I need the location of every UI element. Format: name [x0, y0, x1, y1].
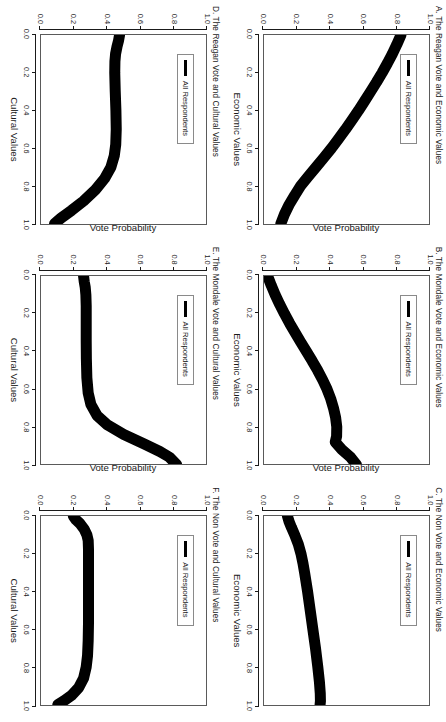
plot-area: All Respondents0.00.20.40.60.81.0Cultura…: [40, 275, 207, 466]
chart-panel-c: C. The Non Vote and Economic ValuesAll R…: [223, 481, 446, 722]
y-axis-tick-label: 0.4: [325, 254, 334, 264]
series-line: [84, 276, 177, 465]
x-axis-tick-label: 0.6: [22, 143, 31, 153]
chart-legend: All Respondents: [400, 535, 418, 625]
y-axis-tick: [207, 507, 208, 511]
x-axis-title: Cultural Values: [9, 515, 20, 706]
y-axis-tick-label: 0.0: [259, 495, 268, 505]
y-axis-line: [40, 510, 207, 511]
x-axis-tick: [255, 515, 259, 516]
legend-label: All Respondents: [182, 322, 190, 377]
x-axis-tick: [255, 274, 259, 275]
chart-panel-d: D. The Reagan Vote and Cultural ValuesAl…: [0, 0, 223, 241]
y-axis-tick-label: 1.0: [426, 495, 435, 505]
y-axis-tick: [140, 267, 141, 271]
y-axis-tick-label: 0.6: [359, 14, 368, 24]
y-axis-tick: [363, 267, 364, 271]
x-axis-tick: [32, 34, 36, 35]
panel-title: A. The Reagan Vote and Economic Values: [434, 6, 443, 164]
x-axis-tick-label: 1.0: [22, 220, 31, 230]
legend-label: All Respondents: [405, 81, 413, 136]
y-axis-tick-label: 0.6: [136, 14, 145, 24]
y-axis-tick: [363, 26, 364, 30]
y-axis: 0.00.20.40.60.81.0Vote Probability: [40, 2, 207, 34]
x-axis-tick: [255, 186, 259, 187]
x-axis-tick: [32, 553, 36, 554]
x-axis-tick: [32, 186, 36, 187]
series-line: [287, 516, 320, 705]
y-axis: 0.00.20.40.60.81.0Vote Probability: [263, 243, 430, 275]
x-axis-tick-label: 1.0: [245, 701, 254, 711]
x-axis-tick-label: 1.0: [22, 460, 31, 470]
x-axis-tick-label: 0.0: [22, 29, 31, 39]
panel-grid: A. The Reagan Vote and Economic ValuesAl…: [0, 0, 446, 722]
legend-line-swatch: [184, 541, 187, 557]
y-axis-tick-label: 0.8: [169, 495, 178, 505]
y-axis-tick: [263, 26, 264, 30]
chart-panel-e: E. The Mondale Vote and Cultural ValuesA…: [0, 241, 223, 482]
series-line: [281, 35, 401, 224]
panel-title: D. The Reagan Vote and Cultural Values: [211, 6, 220, 157]
x-axis-tick-label: 0.4: [22, 586, 31, 596]
y-axis-tick: [73, 26, 74, 30]
x-axis-tick-label: 0.2: [22, 67, 31, 77]
y-axis-tick: [40, 507, 41, 511]
x-axis-tick-label: 0.8: [245, 422, 254, 432]
x-axis-tick: [255, 224, 259, 225]
x-axis-tick-label: 0.0: [22, 270, 31, 280]
y-axis-tick: [207, 26, 208, 30]
y-axis-tick-label: 0.2: [69, 14, 78, 24]
plot-box: All Respondents: [40, 275, 207, 466]
x-axis-title: Cultural Values: [9, 275, 20, 466]
y-axis-tick-label: 0.6: [136, 495, 145, 505]
x-axis-title: Economic Values: [232, 34, 243, 225]
y-axis-line: [263, 29, 430, 30]
x-axis-tick: [255, 667, 259, 668]
x-axis-tick-label: 1.0: [245, 220, 254, 230]
x-axis-tick: [32, 312, 36, 313]
y-axis-tick: [173, 267, 174, 271]
y-axis-tick: [207, 267, 208, 271]
y-axis-tick-label: 0.0: [36, 254, 45, 264]
x-axis-line: [35, 275, 36, 466]
x-axis-tick: [255, 110, 259, 111]
y-axis-tick-label: 1.0: [203, 254, 212, 264]
figure-canvas: A. The Reagan Vote and Economic ValuesAl…: [0, 0, 446, 722]
x-axis-tick: [32, 274, 36, 275]
chart-legend: All Respondents: [400, 54, 418, 144]
x-axis-tick-label: 0.0: [245, 270, 254, 280]
y-axis-tick-label: 0.6: [359, 495, 368, 505]
series-line: [268, 276, 357, 465]
x-axis-tick-label: 0.4: [245, 346, 254, 356]
x-axis-tick-label: 0.2: [22, 308, 31, 318]
x-axis-tick: [255, 553, 259, 554]
x-axis-tick-label: 0.0: [245, 29, 254, 39]
x-axis: 0.00.20.40.60.81.0Cultural Values: [6, 275, 40, 466]
x-axis-tick: [32, 667, 36, 668]
y-axis-tick-label: 0.4: [102, 14, 111, 24]
y-axis-tick-label: 0.2: [69, 254, 78, 264]
y-axis-line: [40, 29, 207, 30]
x-axis-tick: [32, 389, 36, 390]
y-axis: 0.00.20.40.60.81.0Vote Probability: [40, 483, 207, 515]
x-axis-tick: [255, 465, 259, 466]
y-axis-tick: [73, 507, 74, 511]
x-axis-line: [258, 34, 259, 225]
x-axis-tick-label: 0.6: [245, 384, 254, 394]
x-axis-tick: [255, 591, 259, 592]
y-axis-tick: [40, 267, 41, 271]
x-axis-tick-label: 0.8: [245, 181, 254, 191]
x-axis-tick: [32, 110, 36, 111]
y-axis-tick: [173, 26, 174, 30]
plot-area: All Respondents0.00.20.40.60.81.0Cultura…: [40, 34, 207, 225]
x-axis-tick: [255, 34, 259, 35]
chart-legend: All Respondents: [177, 54, 195, 144]
y-axis-tick-label: 0.0: [36, 14, 45, 24]
legend-label: All Respondents: [182, 81, 190, 136]
x-axis-line: [258, 515, 259, 706]
chart-legend: All Respondents: [400, 295, 418, 385]
y-axis-tick: [329, 507, 330, 511]
y-axis-tick-label: 0.2: [69, 495, 78, 505]
legend-label: All Respondents: [182, 562, 190, 617]
y-axis: 0.00.20.40.60.81.0Vote Probability: [263, 2, 430, 34]
